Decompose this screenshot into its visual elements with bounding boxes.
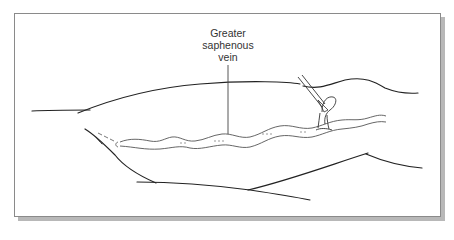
clamp-jaw-2 (302, 75, 325, 104)
label-line-1: Greater (178, 27, 278, 39)
ligature-loop (322, 97, 336, 124)
knee-crease (96, 137, 102, 144)
incision-dashes (98, 133, 114, 141)
label-line-3: vein (178, 51, 278, 63)
leg-upper-outline (78, 82, 300, 113)
ligature-knot (316, 129, 332, 131)
vein-end-left (116, 142, 118, 147)
greater-saphenous-vein-label: Greater saphenous vein (178, 27, 278, 63)
leg-lower-outline (137, 182, 310, 200)
ligature-stem (318, 113, 329, 129)
leg-upper-outline-right (303, 79, 418, 94)
vein-wall-lower (120, 122, 386, 150)
clamp-jaw-1 (298, 77, 322, 107)
calf-outline-right (366, 154, 422, 168)
leg-upper-outline-left (32, 110, 90, 111)
calf-outline (248, 153, 368, 190)
label-line-2: saphenous (178, 39, 278, 51)
